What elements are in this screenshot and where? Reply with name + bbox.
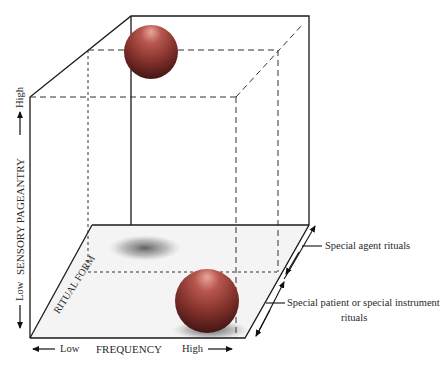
- y-axis-high-label: High: [15, 87, 26, 108]
- floor-shadow: [109, 235, 181, 261]
- x-axis-low-label: Low: [60, 344, 79, 355]
- special-agent-label: Special agent rituals: [325, 241, 410, 252]
- x-axis-high-label: High: [182, 344, 203, 355]
- y-axis-title: SENSORY PAGEANTRY: [15, 158, 26, 275]
- y-axis-low-label: Low: [15, 282, 26, 301]
- bottom-sphere: [175, 269, 239, 333]
- cube-diagram: [0, 0, 446, 366]
- special-patient-label-line1: Special patient or special instrument: [287, 298, 440, 309]
- special-patient-label-line2: rituals: [341, 313, 367, 324]
- top-sphere: [124, 25, 178, 79]
- x-axis-title: FREQUENCY: [96, 344, 162, 355]
